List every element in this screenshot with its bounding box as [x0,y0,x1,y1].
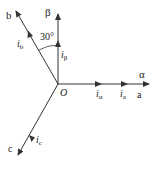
angle-label: 30° [40,31,54,42]
vector-diagram: b β 30° ib iβ α O iα ia a ic c [0,0,162,171]
i-alpha-arrowhead-icon [95,81,102,87]
axis-label-c: c [8,143,13,154]
vector-label-i-beta: iβ [61,49,68,62]
vector-label-i-alpha: iα [96,88,103,101]
axis-label-beta: β [45,6,51,18]
i-a-arrowhead-icon [121,81,128,87]
i-beta-arrowhead-icon [55,40,61,47]
vector-label-i-c: ic [36,134,42,147]
alpha-axis [58,81,149,87]
i-b-arrowhead-icon [28,31,34,39]
axis-label-a: a [137,89,142,100]
i-c-arrowhead-icon [29,135,35,142]
angle-arc [39,45,59,50]
vector-label-i-a: ia [120,88,127,101]
origin-label: O [60,87,67,98]
axis-label-b: b [6,9,12,21]
axis-label-alpha: α [139,68,145,80]
vector-label-i-b: ib [17,38,24,51]
